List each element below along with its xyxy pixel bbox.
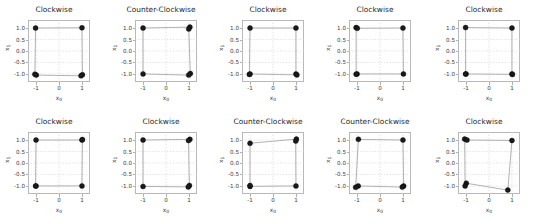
y-tick-mark [133,140,136,141]
x-axis-label-subscript: 0 [166,97,169,102]
data-point-marker [509,138,514,143]
y-axis-label-base: x [434,48,440,51]
data-point-marker [400,185,405,190]
x-tick-mark [166,194,167,197]
x-tick-mark [273,194,274,197]
y-tick-label: 1.0 [230,25,239,31]
y-tick-mark [456,140,459,141]
x-tick-mark [189,82,190,85]
y-tick-mark [240,40,243,41]
y-axis-label-subscript: 1 [327,157,332,160]
panel-title: Clockwise [0,5,108,14]
y-tick-mark [26,163,29,164]
plot-area: 1.00.50.0-0.5-1.0-101 [242,132,304,194]
x-tick-label: 1 [510,197,514,203]
y-tick-mark [240,51,243,52]
x-tick-mark [380,82,381,85]
connecting-path [35,28,83,76]
y-tick-label: 0.5 [337,149,346,155]
data-point-marker [293,138,298,143]
data-point-marker [354,72,359,77]
plot-area: 1.00.50.0-0.5-1.0-101 [135,132,197,194]
x-tick-mark [250,82,251,85]
y-tick-mark [456,51,459,52]
data-point-marker [141,71,146,76]
y-tick-label: -1.0 [335,71,346,77]
x-axis-label: x0 [135,207,197,214]
y-tick-label: -0.5 [14,59,25,65]
x-axis-label-subscript: 0 [273,209,276,214]
x-axis-label-subscript: 0 [59,97,62,102]
figure-canvas: Clockwise1.00.50.0-0.5-1.0-101x1x0Counte… [0,0,544,224]
y-tick-label: 1.0 [446,137,455,143]
y-tick-label: -0.5 [335,171,346,177]
y-tick-label: -0.5 [228,171,239,177]
y-axis-label: x1 [218,157,225,163]
y-tick-label: 1.0 [16,137,25,143]
y-tick-label: 1.0 [16,25,25,31]
y-axis-label-subscript: 1 [6,157,11,160]
y-tick-label: 0.0 [123,160,132,166]
x-tick-label: 0 [378,197,382,203]
x-tick-mark [143,194,144,197]
y-tick-label: 0.5 [446,37,455,43]
panel-title: Counter-Clockwise [107,5,215,14]
data-point-marker [248,26,253,31]
panel-title: Clockwise [0,117,108,126]
y-tick-label: 1.0 [123,25,132,31]
y-axis-label-base: x [325,160,331,163]
x-tick-mark [82,82,83,85]
y-axis-label: x1 [325,157,332,163]
y-tick-mark [240,74,243,75]
panel-title: Clockwise [430,5,538,14]
y-tick-mark [456,186,459,187]
y-tick-mark [347,62,350,63]
y-axis-label-base: x [4,48,10,51]
plot-graphics [242,20,304,82]
data-point-marker [294,72,299,77]
x-tick-label: -1 [140,85,146,91]
x-axis-label: x0 [28,95,90,102]
plot-area: 1.00.50.0-0.5-1.0-101 [458,20,520,82]
y-tick-label: -0.5 [14,171,25,177]
y-axis-label-base: x [218,160,224,163]
x-axis-label-subscript: 0 [166,209,169,214]
y-tick-mark [26,62,29,63]
data-point-marker [141,26,146,31]
plot-graphics [242,132,304,194]
y-tick-mark [26,51,29,52]
y-tick-mark [456,163,459,164]
x-tick-label: 1 [80,85,84,91]
data-point-marker [33,26,38,31]
connecting-path [356,139,404,187]
y-tick-label: -0.5 [335,59,346,65]
y-axis-label: x1 [218,45,225,51]
y-tick-label: -0.5 [121,59,132,65]
data-point-marker [401,71,406,76]
y-axis-label-subscript: 1 [220,45,225,48]
x-tick-label: 1 [510,85,514,91]
y-axis-label-base: x [325,48,331,51]
plot-graphics [349,20,411,82]
x-tick-mark [512,194,513,197]
x-axis-label: x0 [458,95,520,102]
y-tick-mark [26,186,29,187]
x-axis-label: x0 [349,207,411,214]
data-point-marker [248,183,253,188]
y-tick-mark [133,40,136,41]
x-axis-label: x0 [349,95,411,102]
panel-title: Counter-Clockwise [321,117,429,126]
y-tick-mark [133,186,136,187]
y-tick-mark [240,174,243,175]
x-tick-mark [512,82,513,85]
y-tick-label: -1.0 [14,71,25,77]
y-tick-mark [347,152,350,153]
subplot-panel: Clockwise1.00.50.0-0.5-1.0-101x1x0 [107,112,215,224]
data-point-marker [141,184,146,189]
plot-area: 1.00.50.0-0.5-1.0-101 [135,20,197,82]
x-tick-label: -1 [354,197,360,203]
y-axis-label-base: x [4,160,10,163]
x-tick-mark [403,82,404,85]
y-tick-label: 0.5 [230,37,239,43]
y-tick-mark [347,140,350,141]
